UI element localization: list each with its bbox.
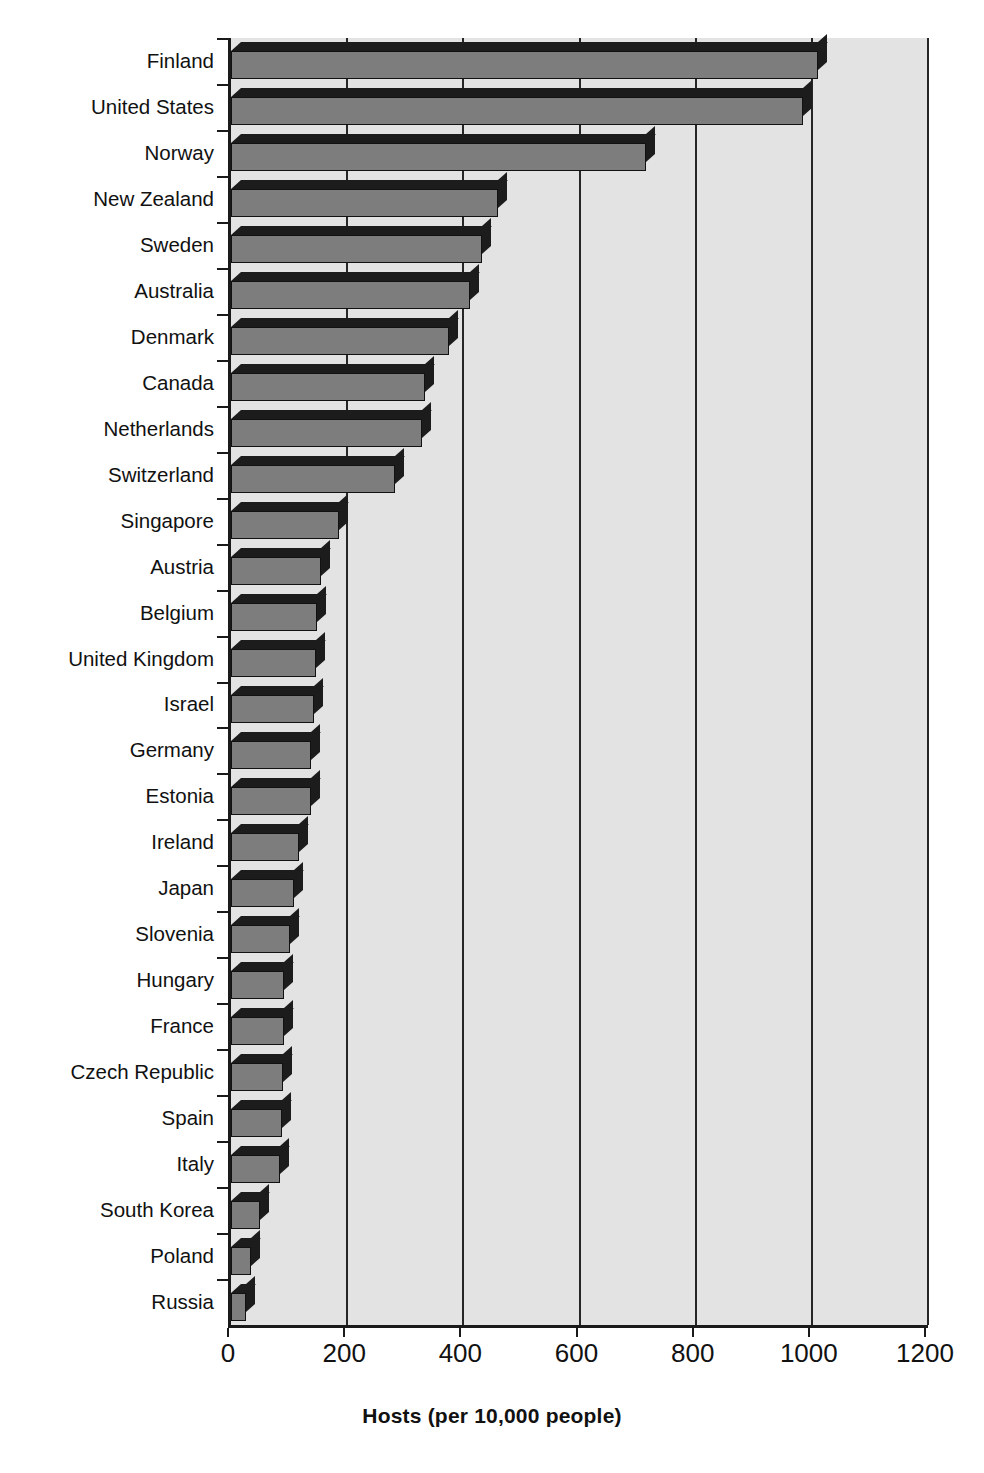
y-axis-tick — [217, 314, 228, 316]
y-axis-label: Poland — [150, 1246, 214, 1267]
bar[interactable] — [231, 511, 339, 539]
y-axis-tick — [217, 498, 228, 500]
bar-side-face — [284, 954, 293, 990]
bar-top-face — [231, 226, 492, 235]
bar-side-face — [290, 908, 299, 944]
bar-side-face — [282, 1092, 291, 1128]
bar[interactable] — [231, 925, 290, 953]
bar[interactable] — [231, 649, 316, 677]
bar[interactable] — [231, 695, 314, 723]
bar-side-face — [251, 1229, 260, 1265]
bar[interactable] — [231, 419, 422, 447]
bar[interactable] — [231, 1017, 284, 1045]
x-axis-tick-label: 1200 — [896, 1340, 954, 1366]
bar-side-face — [280, 1138, 289, 1174]
y-axis-tick — [217, 1233, 228, 1235]
y-axis-label: Norway — [145, 143, 215, 164]
bar-side-face — [482, 218, 491, 254]
bar[interactable] — [231, 1155, 280, 1183]
y-axis-tick — [217, 636, 228, 638]
bar-side-face — [425, 356, 434, 392]
bar-top-face — [231, 456, 405, 465]
bar[interactable] — [231, 327, 449, 355]
bar-top-face — [231, 134, 656, 143]
bar-side-face — [299, 816, 308, 852]
y-axis-label: Japan — [158, 878, 214, 899]
bar[interactable] — [231, 741, 311, 769]
y-axis-tick — [217, 957, 228, 959]
bar[interactable] — [231, 143, 646, 171]
bar-top-face — [231, 272, 480, 281]
x-axis-tick — [576, 1328, 578, 1337]
y-axis-tick — [217, 773, 228, 775]
bar[interactable] — [231, 1247, 251, 1275]
x-axis-tick — [808, 1328, 810, 1337]
bar[interactable] — [231, 1293, 246, 1321]
x-axis-tick — [459, 1328, 461, 1337]
y-axis-tick — [217, 1049, 228, 1051]
bar-top-face — [231, 88, 813, 97]
bar[interactable] — [231, 557, 321, 585]
bar-chart-figure: FinlandUnited StatesNorwayNew ZealandSwe… — [0, 0, 984, 1473]
x-axis-tick-label: 200 — [322, 1340, 365, 1366]
bar[interactable] — [231, 465, 395, 493]
y-axis-label: New Zealand — [93, 189, 214, 210]
bar-series — [231, 38, 928, 1325]
y-axis-tick — [217, 84, 228, 86]
y-axis-label: Denmark — [131, 327, 214, 348]
x-axis-title: Hosts (per 10,000 people) — [0, 1404, 984, 1428]
x-axis-tick-label: 800 — [671, 1340, 714, 1366]
x-axis-tick-labels: 020040060080010001200 — [0, 1340, 984, 1380]
y-axis-tick — [217, 1003, 228, 1005]
bar[interactable] — [231, 51, 818, 79]
bar-top-face — [231, 318, 459, 327]
bar-top-face — [231, 42, 828, 51]
bar-top-face — [231, 594, 327, 603]
y-axis-tick — [217, 1279, 228, 1281]
y-axis-label: Canada — [142, 373, 214, 394]
bar-side-face — [422, 402, 431, 438]
bar[interactable] — [231, 1201, 260, 1229]
bar[interactable] — [231, 879, 294, 907]
y-axis-label: Belgium — [140, 603, 214, 624]
bar-top-face — [231, 548, 331, 557]
bar[interactable] — [231, 373, 425, 401]
bar-side-face — [311, 770, 320, 806]
bar[interactable] — [231, 603, 317, 631]
bar[interactable] — [231, 189, 498, 217]
bar-side-face — [317, 586, 326, 622]
y-axis-label: Italy — [176, 1154, 214, 1175]
y-axis-tick — [217, 176, 228, 178]
bar[interactable] — [231, 1063, 283, 1091]
bar-top-face — [231, 824, 309, 833]
y-axis-tick — [217, 452, 228, 454]
y-axis-label: Estonia — [146, 786, 214, 807]
bar-side-face — [246, 1275, 255, 1311]
y-axis-label: Spain — [162, 1108, 214, 1129]
bar-top-face — [231, 732, 321, 741]
bar-side-face — [284, 1000, 293, 1036]
x-axis-tick-label: 0 — [221, 1340, 235, 1366]
y-axis-ticks — [214, 38, 228, 1325]
bar[interactable] — [231, 833, 299, 861]
y-axis-label: Switzerland — [108, 465, 214, 486]
y-axis-label: United States — [91, 97, 214, 118]
bar-side-face — [449, 310, 458, 346]
y-axis-tick — [217, 865, 228, 867]
bar[interactable] — [231, 97, 803, 125]
x-axis-tick — [227, 1328, 229, 1337]
bar-top-face — [231, 180, 508, 189]
x-axis-tick — [343, 1328, 345, 1337]
bar-side-face — [294, 862, 303, 898]
bar-side-face — [395, 448, 404, 484]
bar[interactable] — [231, 281, 470, 309]
bar[interactable] — [231, 787, 311, 815]
bar-top-face — [231, 502, 349, 511]
y-axis-labels: FinlandUnited StatesNorwayNew ZealandSwe… — [0, 38, 214, 1325]
bar-side-face — [339, 494, 348, 530]
bar[interactable] — [231, 971, 284, 999]
bar[interactable] — [231, 235, 482, 263]
y-axis-label: Germany — [130, 740, 214, 761]
bar[interactable] — [231, 1109, 282, 1137]
bar-side-face — [818, 34, 827, 70]
